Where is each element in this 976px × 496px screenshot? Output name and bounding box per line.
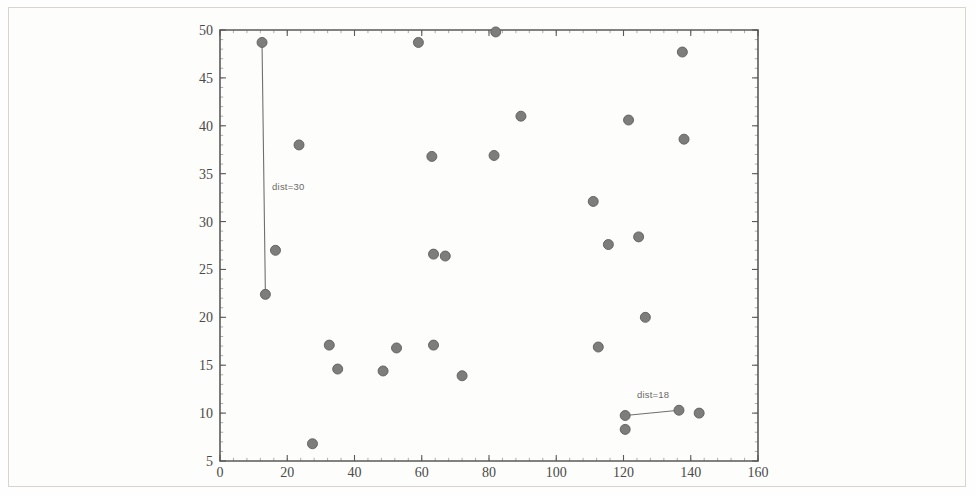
data-point	[588, 196, 598, 206]
x-tick-label: 160	[748, 465, 769, 480]
data-point	[516, 111, 526, 121]
y-tick-label: 30	[199, 215, 213, 230]
data-point	[677, 47, 687, 57]
x-tick-label: 60	[415, 465, 429, 480]
data-point	[270, 245, 280, 255]
annotation-label: dist=18	[637, 389, 669, 400]
y-tick-label: 35	[199, 167, 213, 182]
data-point	[257, 37, 267, 47]
data-point	[674, 405, 684, 415]
data-point	[324, 340, 334, 350]
data-point	[392, 343, 402, 353]
y-tick-label: 40	[199, 119, 213, 134]
data-point	[378, 366, 388, 376]
data-point	[491, 27, 501, 37]
data-point	[620, 411, 630, 421]
y-tick-label: 5	[206, 454, 213, 469]
annotation-connector-line	[625, 410, 679, 415]
data-point	[634, 232, 644, 242]
data-point	[489, 150, 499, 160]
minor-tick-group	[220, 30, 758, 461]
data-point	[593, 342, 603, 352]
annotation-group: dist=30dist=18	[262, 42, 679, 415]
data-point	[429, 340, 439, 350]
major-tick-group	[220, 30, 758, 461]
scatter-figure: 0204060801001201401605101520253035404550…	[0, 0, 976, 496]
annotation-connector-line	[262, 42, 265, 294]
figure-page: 0204060801001201401605101520253035404550…	[0, 0, 976, 496]
y-tick-label: 45	[199, 71, 213, 86]
scatter-plot-svg: 0204060801001201401605101520253035404550…	[0, 0, 976, 496]
x-tick-label: 140	[680, 465, 701, 480]
x-tick-label: 120	[613, 465, 634, 480]
x-tick-label: 20	[280, 465, 294, 480]
data-point	[640, 312, 650, 322]
data-point	[333, 364, 343, 374]
data-point	[413, 37, 423, 47]
data-point-group	[257, 27, 704, 449]
data-point	[620, 424, 630, 434]
y-tick-label: 50	[199, 23, 213, 38]
data-point	[307, 439, 317, 449]
y-tick-label: 25	[199, 262, 213, 277]
x-tick-label: 0	[217, 465, 224, 480]
x-tick-label: 100	[546, 465, 567, 480]
y-tick-label: 10	[199, 406, 213, 421]
data-point	[679, 134, 689, 144]
y-tick-label: 20	[199, 310, 213, 325]
axis-frame	[220, 30, 758, 461]
data-point	[603, 240, 613, 250]
x-tick-label: 40	[348, 465, 362, 480]
data-point	[260, 289, 270, 299]
data-point	[694, 408, 704, 418]
data-point	[294, 140, 304, 150]
annotation-label: dist=30	[272, 181, 304, 192]
x-tick-label: 80	[482, 465, 496, 480]
data-point	[457, 371, 467, 381]
data-point	[624, 115, 634, 125]
data-point	[429, 249, 439, 259]
y-tick-label: 15	[199, 358, 213, 373]
data-point	[440, 251, 450, 261]
data-point	[427, 151, 437, 161]
